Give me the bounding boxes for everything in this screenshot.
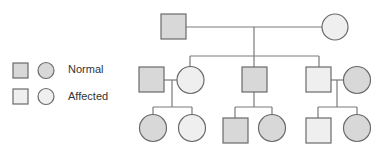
legend-female-normal-icon xyxy=(38,63,54,79)
pedigree-symbols xyxy=(139,14,371,143)
female-affected-III-2 xyxy=(179,115,206,142)
female-normal-II-5 xyxy=(344,67,371,94)
male-affected-II-4 xyxy=(306,67,331,92)
male-normal-II-3 xyxy=(242,67,267,92)
female-normal-III-1 xyxy=(140,115,167,142)
legend-label-normal: Normal xyxy=(68,63,103,75)
female-affected-II-2 xyxy=(177,67,204,94)
male-normal-III-3 xyxy=(223,118,248,143)
female-normal-III-4 xyxy=(259,115,286,142)
female-normal-III-6 xyxy=(344,115,371,142)
legend-female-affected-icon xyxy=(38,89,54,105)
legend-male-normal-icon xyxy=(13,63,28,78)
male-normal-II-1 xyxy=(139,67,164,92)
female-affected-I-2 xyxy=(322,14,348,40)
legend-label-affected: Affected xyxy=(68,90,108,102)
legend-male-affected-icon xyxy=(13,89,28,104)
male-normal-I-1 xyxy=(161,14,186,39)
male-affected-III-5 xyxy=(306,118,331,143)
legend-symbols xyxy=(13,63,54,105)
pedigree-diagram xyxy=(0,0,382,155)
